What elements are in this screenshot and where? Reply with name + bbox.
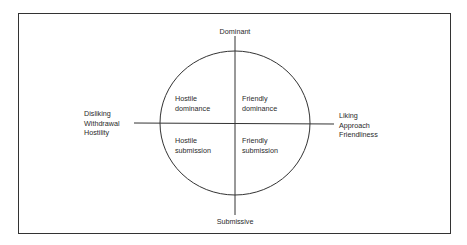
axis-label-left: Disliking Withdrawal Hostility [84,109,120,138]
right-label-line: Approach [339,121,378,131]
left-label-line: Disliking [84,109,120,119]
left-label-line: Hostility [84,128,120,138]
quadrant-hostile-submission: Hostile submission [175,136,211,155]
interpersonal-circle [0,0,467,245]
right-label-line: Liking [339,111,378,121]
axis-label-right: Liking Approach Friendliness [339,111,378,140]
horizontal-axis [134,123,334,124]
quadrant-hostile-dominance: Hostile dominance [175,94,210,113]
right-label-line: Friendliness [339,130,378,140]
quadrant-line: Friendly [242,136,278,146]
left-label-line: Withdrawal [84,119,120,129]
quadrant-line: dominance [175,104,210,114]
quadrant-line: Friendly [242,94,277,104]
quadrant-friendly-submission: Friendly submission [242,136,278,155]
quadrant-line: Hostile [175,94,210,104]
quadrant-line: submission [242,146,278,156]
quadrant-line: dominance [242,104,277,114]
quadrant-line: Hostile [175,136,211,146]
quadrant-friendly-dominance: Friendly dominance [242,94,277,113]
quadrant-line: submission [175,146,211,156]
axis-label-submissive: Submissive [200,217,270,227]
axis-label-dominant: Dominant [205,27,265,37]
